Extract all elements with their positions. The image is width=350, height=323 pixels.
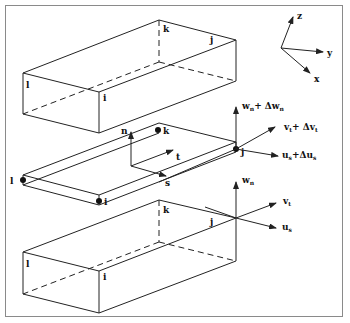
u-bottom-arrow [236,218,276,228]
mid-node-l: l [10,176,14,186]
interface-element-diagram: l i k j l i k j n t s wn+ Δwn vt+ Δ [0,0,350,323]
v-top-label: vt+ Δvt [283,122,318,133]
v-bottom-label: vt [282,196,291,207]
mid-node-j: j [240,147,244,157]
top-node-j: j [209,35,213,45]
u-bottom-label: us [282,222,293,233]
node-i-dot [96,198,102,204]
w-bottom-label: wn [241,175,255,186]
bottom-node-l: l [26,259,30,269]
global-axes-triad: z y x [281,11,333,84]
z-axis-arrow [281,17,293,48]
bottom-node-j: j [209,217,213,227]
y-axis-arrow [281,48,323,52]
top-node-k: k [163,24,170,34]
bottom-node-i: i [103,272,107,282]
u-top-label: us+Δus [282,150,317,161]
interface-element: l i k j n t s wn+ Δwn vt+ Δvt us+Δus [10,101,318,207]
top-solid-element: l i k j [23,20,236,133]
v-bottom-arrow [236,203,276,218]
x-axis-arrow [281,48,310,73]
node-k-dot [155,127,161,133]
node-l-dot [20,177,26,183]
top-node-i: i [103,93,107,103]
bottom-node-k: k [163,205,170,215]
t-axis-arrow [131,150,173,166]
n-axis-label: n [121,126,128,136]
top-node-l: l [26,80,30,90]
t-axis-label: t [176,152,181,162]
z-axis-label: z [297,11,302,21]
y-axis-label: y [326,48,333,58]
mid-node-k: k [163,126,170,136]
v-top-arrow [236,127,275,149]
w-top-label: wn+ Δwn [241,101,285,112]
x-axis-label: x [314,74,320,84]
mid-node-i: i [104,197,108,207]
